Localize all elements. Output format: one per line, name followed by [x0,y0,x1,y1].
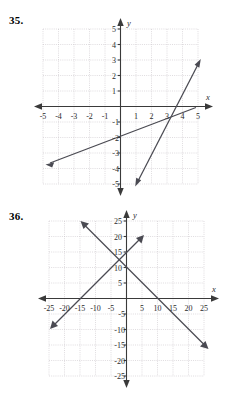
y-tick-label: 4 [112,41,116,50]
x-axis-label-35: x [205,92,210,102]
y-tick-label: -20 [114,357,125,366]
x-tick-label: 1 [134,112,138,121]
x-tick-label: -5 [40,112,47,121]
x-tick-label: -3 [71,112,78,121]
x-tick-label: -10 [90,304,101,313]
graph-36: -25 -20 -15 -10 -5 5 10 15 20 25 25 20 1… [0,196,237,396]
y-tick-label: -1 [112,118,119,127]
y-tick-label: -4 [112,165,119,174]
y-tick-label: -2 [112,134,119,143]
graph-35: -5 -4 -3 -2 -1 1 2 3 4 5 5 4 3 2 1 -1 -2… [0,0,237,200]
x-tick-label: 3 [165,112,169,121]
y-axis-label-35: y [126,18,131,28]
y-tick-label: 25 [114,217,122,226]
line-steep-35 [135,59,201,187]
problem-36: 36. [0,196,237,396]
x-tick-label: 15 [169,304,177,313]
y-tick-label: 2 [112,72,116,81]
x-tick-label: -5 [108,304,115,313]
x-tick-label: 20 [185,304,193,313]
y-tick-label: 10 [114,264,122,273]
y-tick-label: -3 [112,149,119,158]
y-tick-label: -5 [112,180,119,189]
y-tick-label: -5 [118,310,125,319]
y-tick-label: -25 [114,372,125,381]
y-axis-label-36: y [132,210,137,220]
x-axis-36 [38,295,219,301]
y-tick-label: -15 [114,341,125,350]
x-tick-labels-35: -5 -4 -3 -2 -1 1 2 3 4 5 [40,112,200,121]
x-tick-label: 4 [181,112,185,121]
x-tick-label: 5 [140,304,144,313]
problem-35: 35. [0,0,237,200]
x-tick-label: -15 [75,304,86,313]
y-tick-label: 5 [112,25,116,34]
y-tick-label: 15 [114,248,122,257]
x-tick-label: 2 [150,112,154,121]
x-tick-label: -25 [44,304,55,313]
x-tick-label: 5 [196,112,200,121]
y-tick-label: -10 [114,326,125,335]
y-tick-label: 1 [112,87,116,96]
y-tick-label: 5 [118,279,122,288]
x-tick-label: -1 [102,112,109,121]
x-axis-35 [34,103,213,109]
x-tick-label: 10 [154,304,162,313]
y-tick-label: 3 [112,56,116,65]
x-tick-label: -4 [55,112,62,121]
x-tick-label: 25 [200,304,208,313]
x-axis-label-36: x [211,284,216,294]
line-increasing-36 [50,235,144,329]
y-tick-label: 20 [114,233,122,242]
x-tick-labels-36: -25 -20 -15 -10 -5 5 10 15 20 25 [44,304,208,313]
x-tick-label: -2 [86,112,93,121]
x-tick-label: -20 [59,304,70,313]
